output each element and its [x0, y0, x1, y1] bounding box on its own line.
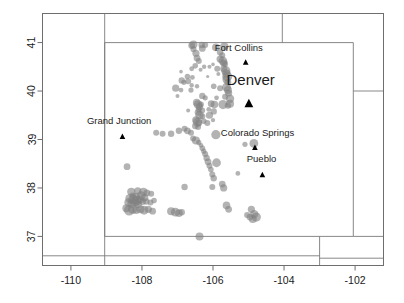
map-plot-area: -110-108-106-104-1023738394041 Fort Coll…: [0, 0, 404, 303]
data-point: [176, 128, 182, 134]
data-point: [153, 130, 159, 136]
data-point: [124, 163, 131, 170]
data-point: [242, 142, 247, 147]
data-point: [212, 158, 221, 167]
data-point: [186, 108, 190, 112]
axis-layer: -110-108-106-104-1023738394041: [26, 37, 366, 286]
data-point: [196, 58, 202, 64]
data-point: [172, 85, 179, 92]
city-marker-denver: [244, 99, 253, 108]
data-point: [188, 87, 193, 92]
data-point: [181, 184, 187, 190]
data-point: [160, 131, 166, 137]
data-point: [149, 208, 156, 215]
data-point: [211, 63, 215, 67]
data-point: [203, 95, 208, 100]
data-point: [244, 212, 250, 218]
y-axis-tick-label: 41: [26, 37, 38, 49]
data-point: [148, 191, 154, 197]
plot-frame: [43, 14, 384, 266]
data-point: [211, 101, 219, 109]
data-point: [189, 66, 194, 71]
data-point: [199, 45, 206, 52]
data-point: [199, 68, 203, 72]
data-point: [214, 95, 219, 100]
y-axis-tick-label: 39: [26, 134, 38, 146]
data-point: [211, 130, 220, 139]
x-axis-tick-label: -110: [61, 274, 81, 286]
data-point: [195, 124, 201, 130]
data-point: [188, 130, 194, 136]
data-point: [211, 118, 215, 122]
city-marker-layer: Fort CollinsDenverGrand JunctionColorado…: [87, 42, 295, 177]
y-axis-tick-label: 38: [26, 182, 38, 194]
data-point: [216, 72, 220, 76]
data-point: [202, 65, 206, 69]
x-axis-tick-label: -104: [274, 274, 295, 286]
data-point: [185, 78, 191, 84]
data-point: [179, 70, 183, 74]
colorado-scatter-map-figure: -110-108-106-104-1023738394041 Fort Coll…: [0, 0, 404, 303]
city-label-colorado-springs: Colorado Springs: [221, 127, 295, 138]
data-point: [204, 120, 210, 126]
data-point: [214, 66, 220, 72]
data-point: [209, 184, 215, 190]
data-point: [206, 107, 211, 112]
city-label-pueblo: Pueblo: [247, 153, 277, 164]
data-point: [211, 83, 217, 89]
city-label-grand-junction: Grand Junction: [87, 115, 151, 126]
data-point: [179, 209, 185, 215]
data-point: [195, 84, 199, 88]
city-label-denver: Denver: [226, 71, 274, 88]
data-point: [199, 113, 205, 119]
state-boundary-layer: [43, 14, 384, 266]
data-point: [225, 206, 232, 213]
data-point: [206, 75, 209, 78]
x-axis-tick-label: -108: [131, 274, 152, 286]
data-point: [207, 65, 211, 69]
data-point: [175, 94, 179, 98]
data-point: [220, 184, 227, 191]
data-point: [249, 139, 258, 148]
data-point: [168, 130, 174, 136]
plot-frame-layer: [43, 14, 384, 266]
data-point: [179, 88, 184, 93]
city-marker-grand-junction: [120, 133, 126, 139]
data-point: [151, 198, 157, 204]
data-point: [206, 112, 213, 119]
city-marker-pueblo: [260, 172, 266, 178]
y-axis-tick-label: 37: [26, 230, 38, 242]
data-point: [189, 83, 193, 87]
x-axis-tick-label: -106: [202, 274, 223, 286]
data-point: [196, 232, 204, 240]
data-point: [217, 85, 223, 91]
data-point: [211, 175, 217, 181]
data-point: [190, 75, 195, 80]
x-axis-tick-label: -102: [345, 274, 366, 286]
y-axis-tick-label: 40: [26, 85, 38, 97]
data-point: [235, 171, 240, 176]
city-marker-fort-collins: [243, 59, 249, 65]
data-point: [226, 100, 234, 108]
city-label-fort-collins: Fort Collins: [215, 42, 263, 53]
